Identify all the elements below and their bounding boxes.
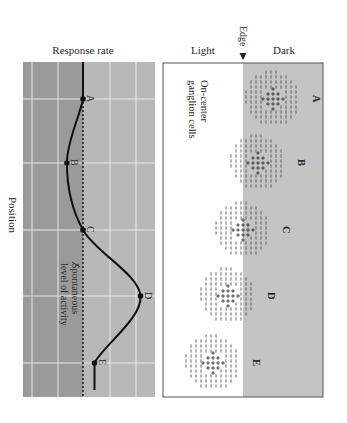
response-point-label: B bbox=[69, 159, 80, 166]
response-point-a bbox=[80, 96, 86, 102]
cell-label: C bbox=[281, 226, 292, 234]
response-point-label: C bbox=[85, 226, 96, 233]
cell-label: B bbox=[296, 159, 307, 166]
response-point-label: A bbox=[85, 95, 96, 103]
response-graph: ABCDE Response rate Position Spontaneous… bbox=[7, 44, 155, 397]
edge-label: Edge bbox=[238, 26, 249, 47]
cells-label-line2: ganglion cells bbox=[187, 80, 198, 139]
cells-label-line1: On-center bbox=[199, 80, 210, 122]
response-point-e bbox=[92, 360, 98, 366]
baseline-label-line1: Spontaneous bbox=[70, 263, 81, 314]
position-axis-label: Position bbox=[7, 197, 19, 234]
cell-label: A bbox=[311, 95, 322, 103]
graph-title: Response rate bbox=[52, 44, 114, 56]
dark-label: Dark bbox=[273, 44, 295, 56]
response-point-c bbox=[80, 227, 86, 233]
response-point-label: E bbox=[97, 359, 108, 365]
response-point-d bbox=[138, 293, 144, 299]
figure: ABCDE Response rate Position Spontaneous… bbox=[0, 0, 347, 423]
stimulus-panel: ABCDE Light Dark Edge On-center ganglion… bbox=[163, 26, 323, 397]
response-point-b bbox=[64, 160, 70, 166]
edge-arrow-icon bbox=[240, 53, 247, 60]
response-point-label: D bbox=[143, 292, 154, 299]
light-label: Light bbox=[191, 44, 215, 56]
cell-label: D bbox=[266, 292, 277, 300]
cell-label: E bbox=[251, 359, 262, 366]
baseline-label-line2: level of activity bbox=[59, 263, 70, 326]
